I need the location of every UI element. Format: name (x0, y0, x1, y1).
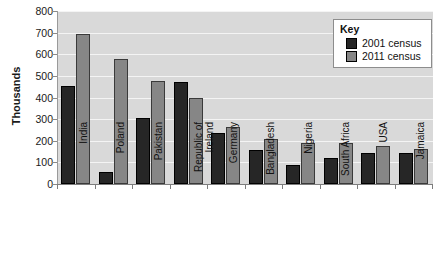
bar-chart: Thousands 0100200300400500600700800 Key … (0, 0, 441, 261)
y-axis-tick-labels: 0100200300400500600700800 (21, 0, 53, 190)
y-axis-tick-mark (52, 119, 57, 120)
x-axis-category-label: South Africa (341, 122, 352, 192)
x-axis-tick-mark (357, 185, 358, 189)
x-axis-category-label: Bangladesh (266, 122, 277, 192)
bar (324, 158, 338, 184)
x-axis-category-label: Germany (229, 122, 240, 192)
x-axis-tick-mark (207, 185, 208, 189)
y-axis-tick-mark (52, 98, 57, 99)
x-axis-tick-mark (395, 185, 396, 189)
y-axis-tick-label: 700 (23, 28, 53, 38)
x-axis-tick-mark (320, 185, 321, 189)
y-axis-tick-mark (52, 162, 57, 163)
y-axis-tick-mark (52, 33, 57, 34)
y-axis-tick-label: 300 (23, 114, 53, 124)
x-axis-tick-mark (282, 185, 283, 189)
legend: Key 2001 census 2011 census (333, 19, 432, 68)
y-axis-tick-label: 800 (23, 6, 53, 16)
bar (361, 153, 375, 184)
legend-item-2001: 2001 census (346, 37, 426, 49)
legend-label-2001: 2001 census (362, 37, 422, 49)
y-axis-tick-mark (52, 76, 57, 77)
x-axis-tick-mark (170, 185, 171, 189)
x-axis-category-label: Pakistan (154, 122, 165, 192)
bar (61, 86, 75, 184)
bar-group (283, 11, 321, 184)
legend-title: Key (340, 23, 426, 35)
x-axis-category-label: India (79, 122, 90, 192)
x-axis-tick-mark (432, 185, 433, 189)
x-axis-category-label: Jamaica (416, 122, 427, 192)
y-axis-tick-label: 500 (23, 71, 53, 81)
x-axis-tick-mark (95, 185, 96, 189)
x-axis-tick-mark (132, 185, 133, 189)
bar-group (133, 11, 171, 184)
x-axis-category-label: Republic of Ireland (194, 122, 215, 192)
y-axis-tick-mark (52, 11, 57, 12)
bar (174, 82, 188, 184)
bar-group (96, 11, 134, 184)
bar (99, 172, 113, 184)
y-axis-tick-label: 100 (23, 157, 53, 167)
bar (286, 165, 300, 184)
bar-group (58, 11, 96, 184)
legend-swatch-2011 (346, 51, 357, 62)
y-axis-tick-mark (52, 141, 57, 142)
legend-swatch-2001 (346, 38, 357, 49)
legend-label-2011: 2011 census (362, 50, 421, 62)
y-axis-tick-label: 0 (23, 179, 53, 189)
y-axis-tick-mark (52, 54, 57, 55)
y-axis-tick-label: 600 (23, 49, 53, 59)
x-axis-category-label: Nigeria (304, 122, 315, 192)
bar (249, 150, 263, 184)
y-axis-tick-label: 200 (23, 136, 53, 146)
bar (399, 153, 413, 184)
x-axis-tick-mark (245, 185, 246, 189)
y-axis-tick-label: 400 (23, 93, 53, 103)
x-axis-category-label: Poland (116, 122, 127, 192)
x-axis-tick-mark (57, 185, 58, 189)
legend-item-2011: 2011 census (346, 50, 426, 62)
x-axis-category-label: USA (379, 122, 390, 192)
bar (136, 118, 150, 184)
